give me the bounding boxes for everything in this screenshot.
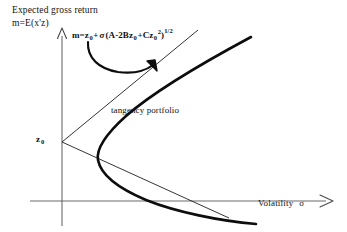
- x-axis-title: Volatilityσ: [258, 198, 304, 209]
- x-axis-title-text: Volatility: [258, 198, 293, 208]
- equation-pointer-arrow: [88, 42, 157, 73]
- arrow-head: [147, 60, 157, 71]
- equation-open-paren: (A-2Bz: [105, 30, 133, 40]
- equation-mid: +Cz: [137, 30, 153, 40]
- frontier-equation-label: m=z0+σ(A-2Bz0+Cz02)1/2: [72, 27, 173, 42]
- tangency-portfolio-label: tangency portfolio: [111, 105, 179, 116]
- riskless-rate-label: z0: [36, 134, 44, 146]
- y-axis-title-line1: Expected gross return: [12, 5, 98, 17]
- equation-exponent: 1/2: [164, 27, 173, 34]
- equation-plus: +: [93, 30, 98, 40]
- riskless-rate-subscript: 0: [40, 138, 44, 145]
- y-axis-group: [58, 28, 67, 226]
- efficient-frontier-curve: [98, 37, 256, 224]
- x-axis-sigma-symbol: σ: [293, 198, 304, 208]
- arrow-shaft: [88, 42, 153, 73]
- equation-prefix: m=z: [72, 30, 89, 40]
- efficient-frontier-figure: Expected gross return m=E(x'z) m=z0+σ(A-…: [0, 0, 347, 232]
- upper-asymptote-line: [62, 30, 198, 142]
- lower-asymptote-line: [62, 142, 229, 218]
